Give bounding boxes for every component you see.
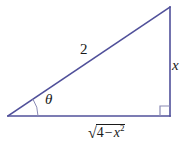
angle-arc (33, 99, 38, 116)
opposite-side-label: x (172, 58, 179, 73)
right-angle-marker-icon (160, 106, 170, 116)
hypotenuse-label: 2 (80, 42, 88, 57)
radicand-exponent: 2 (120, 123, 125, 133)
angle-label-theta: θ (45, 92, 52, 107)
triangle-diagram: 2 x θ √4−x2 (0, 0, 191, 149)
radicand: 4−x2 (96, 124, 126, 141)
minus-operator: − (104, 125, 114, 140)
radicand-number: 4 (97, 125, 104, 140)
adjacent-side-label: √4−x2 (88, 124, 125, 141)
hypotenuse-line (8, 7, 170, 116)
radical-expression: √4−x2 (88, 124, 125, 141)
